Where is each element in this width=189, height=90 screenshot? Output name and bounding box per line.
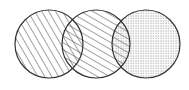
venn-diagram (0, 0, 189, 90)
